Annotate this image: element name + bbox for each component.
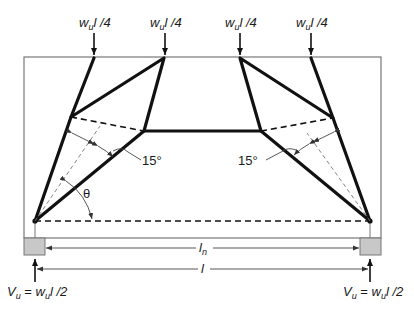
left-angle-arc-upper [72, 133, 94, 144]
left-angle-arc-lower [98, 146, 113, 157]
theta-label: θ [83, 186, 90, 201]
left-support [24, 238, 45, 255]
strut-and-tie-diagram: 15° 15° θ wul /4 wul /4 wul /4 wul /4 ln… [0, 0, 414, 311]
right-upper-tie [261, 118, 333, 131]
load-label-2: wul /4 [150, 15, 182, 32]
right-angle-arc-upper [313, 132, 334, 142]
right-15-label: 15° [238, 153, 258, 168]
left-upper-tie [71, 117, 144, 131]
right-angle-arc-lower [294, 144, 309, 155]
left-reaction-label: Vu = wul /2 [7, 284, 68, 301]
clear-span-label: ln [199, 240, 207, 257]
load-label-1: wul /4 [79, 15, 111, 32]
span-label: l [201, 261, 205, 276]
left-15-label: 15° [142, 153, 162, 168]
right-reaction-label: Vu = wul /2 [343, 284, 404, 301]
beam-outline [24, 57, 381, 238]
load-label-3: wul /4 [225, 15, 257, 32]
right-support [360, 238, 381, 255]
load-label-4: wul /4 [296, 15, 328, 32]
load-arrows [94, 33, 311, 55]
